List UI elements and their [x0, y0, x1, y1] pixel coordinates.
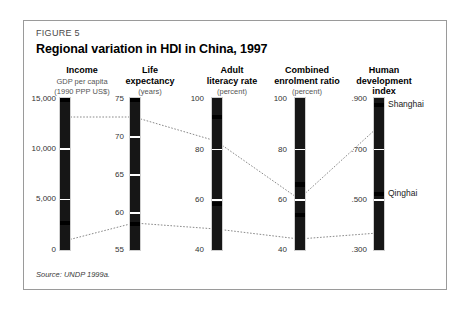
figure-number: FIGURE 5 [36, 28, 80, 38]
tick-life-70: 70 [100, 132, 124, 141]
tick-enrolment-80: 80 [263, 145, 287, 154]
marker-qinghai-hdi [374, 192, 384, 196]
marker-qinghai-life [130, 222, 140, 226]
series-label-qinghai: Qinghai [388, 188, 417, 198]
axis-bar-literacy [211, 97, 223, 251]
tick-hdi-700: .700 [341, 145, 367, 154]
figure-container: FIGURE 5 Regional variation in HDI in Ch… [23, 20, 447, 290]
tick-enrolment-60: 60 [263, 195, 287, 204]
tick-hdi-500: .500 [341, 195, 367, 204]
axis-bar-income [59, 97, 71, 251]
tick-income-0: 0 [14, 245, 56, 254]
marker-qinghai-income [60, 221, 70, 225]
tick-income-15000: 15,000 [14, 94, 56, 103]
marker-shanghai-income [60, 98, 70, 102]
tick-enrolment-40: 40 [263, 245, 287, 254]
source-note: Source: UNDP 1999a. [36, 270, 110, 279]
tick-literacy-40: 40 [180, 245, 204, 254]
axis-bar-hdi [373, 97, 385, 251]
tick-literacy-80: 80 [180, 145, 204, 154]
axis-title-hdi-2: development [336, 76, 432, 87]
tick-life-55: 55 [100, 245, 124, 254]
series-label-shanghai: Shanghai [388, 99, 424, 109]
tick-literacy-60: 60 [180, 195, 204, 204]
marker-shanghai-hdi [374, 103, 384, 107]
marker-shanghai-literacy [212, 115, 222, 119]
tick-literacy-100: 100 [180, 94, 204, 103]
tick-hdi-900: .900 [341, 94, 367, 103]
axis-bar-life-expectancy [129, 97, 141, 251]
axis-header-hdi: Human development index [336, 65, 432, 97]
tick-life-65: 65 [100, 170, 124, 179]
marker-shanghai-enrolment [295, 182, 305, 187]
tick-life-60: 60 [100, 208, 124, 217]
marker-shanghai-life [130, 98, 140, 102]
tick-enrolment-100: 100 [263, 94, 287, 103]
tick-income-10000: 10,000 [14, 144, 56, 153]
page-title: Regional variation in HDI in China, 1997 [36, 42, 267, 56]
axis-bar-enrolment [294, 97, 306, 251]
tick-income-5000: 5,000 [14, 194, 56, 203]
tick-life-75: 75 [100, 94, 124, 103]
axis-title-hdi-1: Human [336, 65, 432, 76]
marker-qinghai-literacy [212, 202, 222, 206]
tick-hdi-300: .300 [341, 245, 367, 254]
marker-qinghai-enrolment [295, 213, 305, 218]
